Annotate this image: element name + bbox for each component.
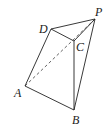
edge-DP [51,19,95,29]
vertex-label-B: B [72,113,80,127]
edge-AB [25,86,74,110]
edges-group [25,19,95,110]
pyramid-diagram: PDCAB [0,0,112,128]
edge-BP [74,19,95,110]
vertex-label-A: A [13,86,22,100]
vertex-labels-group: PDCAB [13,5,103,127]
edge-DC [51,29,74,41]
edge-CP [74,19,95,41]
vertex-label-D: D [38,22,48,36]
edge-AD [25,29,51,86]
vertex-label-P: P [94,5,103,19]
edge-AP-dashed [25,19,95,86]
vertex-label-C: C [76,40,85,54]
